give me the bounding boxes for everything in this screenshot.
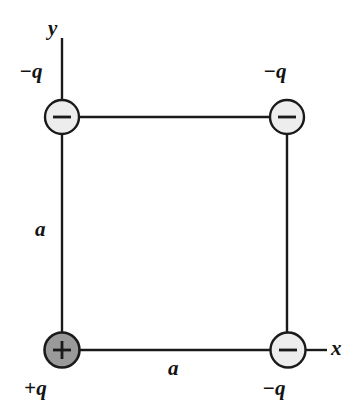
figure-canvas: y x −q −q +q −q a a xyxy=(0,0,354,409)
diagram-svg xyxy=(0,0,354,409)
dimension-label-bottom: a xyxy=(168,358,179,379)
charge-label-top-right: −q xyxy=(263,61,287,82)
y-axis-label: y xyxy=(48,18,58,39)
charge-label-bottom-left: +q xyxy=(24,378,47,399)
charge-label-top-left: −q xyxy=(19,61,43,82)
x-axis-label: x xyxy=(331,338,342,359)
dimension-label-left: a xyxy=(35,219,46,240)
charge-label-bottom-right: −q xyxy=(262,378,286,399)
